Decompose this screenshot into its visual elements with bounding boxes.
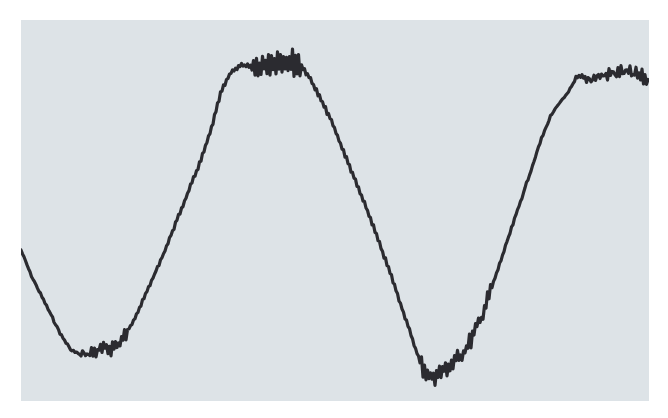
plot-panel (21, 20, 649, 401)
waveform-trace (21, 20, 649, 401)
